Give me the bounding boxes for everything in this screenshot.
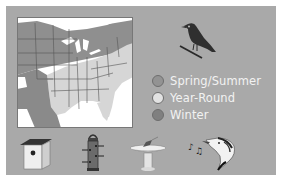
year-round-swatch-icon [152,92,164,104]
singing-bird-icon: ♪ ♫ [188,134,242,178]
legend-label: Winter [170,108,209,122]
legend: Spring/Summer Year-Round Winter [152,72,261,123]
svg-text:♪: ♪ [188,142,194,152]
legend-item-spring-summer: Spring/Summer [152,72,261,89]
legend-item-winter: Winter [152,106,261,123]
range-map [17,17,133,128]
birdbath-icon [128,136,168,178]
legend-label: Year-Round [170,91,235,105]
spring-summer-swatch-icon [152,75,164,87]
tube-feeder-icon [80,132,106,178]
svg-text:♫: ♫ [195,146,203,156]
birdhouse-icon [18,135,54,175]
winter-swatch-icon [152,109,164,121]
legend-item-year-round: Year-Round [152,89,261,106]
perched-bird-icon [178,20,224,60]
legend-label: Spring/Summer [170,74,261,88]
